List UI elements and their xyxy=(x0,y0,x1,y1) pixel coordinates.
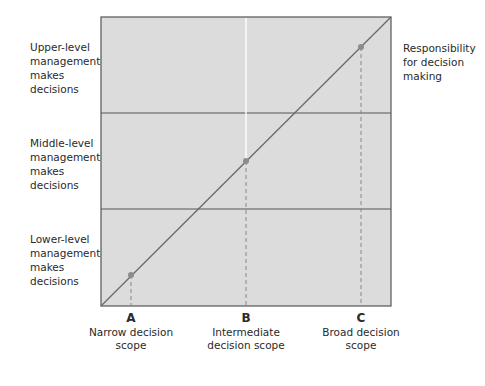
point-b xyxy=(243,158,249,164)
point-desc-a: Narrow decision scope xyxy=(89,326,173,351)
x-label-a: A Narrow decision scope xyxy=(81,311,181,352)
label-lower-level: Lower-level management makes decisions xyxy=(30,232,100,288)
x-label-c: C Broad decision scope xyxy=(311,311,411,352)
point-a xyxy=(128,272,134,278)
point-letter-c: C xyxy=(311,311,411,326)
label-upper-level: Upper-level management makes decisions xyxy=(30,40,100,96)
point-c xyxy=(358,44,364,50)
point-letter-a: A xyxy=(81,311,181,326)
label-responsibility: Responsibility for decision making xyxy=(403,41,485,83)
label-middle-level: Middle-level management makes decisions xyxy=(30,136,100,192)
point-letter-b: B xyxy=(196,311,296,326)
point-desc-c: Broad decision scope xyxy=(322,326,399,351)
x-label-b: B Intermediate decision scope xyxy=(196,311,296,352)
point-desc-b: Intermediate decision scope xyxy=(207,326,284,351)
